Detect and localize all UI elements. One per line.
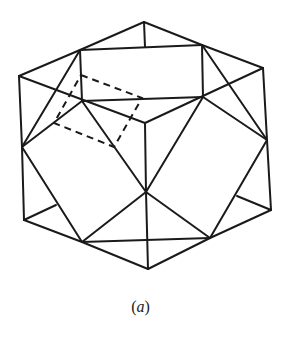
edge-center-lower_center <box>145 123 146 192</box>
edge-rect_br-right_mid <box>203 97 267 140</box>
edge-bottom_left-bottom_lc <box>24 220 82 242</box>
polyhedron-diagram <box>0 0 281 340</box>
edge-right_mid-bottom_right <box>267 140 271 210</box>
caption-letter: a <box>137 298 145 315</box>
edge-lower_center-bottom_lc <box>82 192 146 242</box>
edge-top-rect_tl <box>80 22 144 50</box>
edge-left_mid-bottom_lc <box>22 147 82 242</box>
edge-rect_bl-left_mid <box>22 101 82 147</box>
edge-rect_tl-left_mid <box>22 50 80 147</box>
figure-caption: (a) <box>0 298 281 316</box>
edge-bottom_rc-bottom <box>148 238 210 269</box>
visible-edges <box>19 22 271 269</box>
edge-top-top_mid <box>144 22 145 47</box>
edge-far_left_upper-left_mid <box>19 76 22 147</box>
edge-rect_tl-rect_tr <box>80 45 202 50</box>
edge-bottom_left-left_inner <box>24 205 56 220</box>
edge-rect_br-lower_center <box>146 97 203 192</box>
edge-rect_tr-far_right_upper <box>202 45 263 68</box>
edge-rect_tr-rect_br <box>202 45 203 97</box>
edge-top-rect_tr <box>144 22 202 45</box>
edge-bottom_lc-bottom <box>82 242 148 269</box>
edge-rect_tl-far_left_upper <box>19 50 80 76</box>
edge-right_mid-bottom_rc <box>210 140 267 238</box>
edge-lower_center-bottom_rc <box>146 192 210 238</box>
edge-far_right_upper-center <box>145 68 263 123</box>
edge-left_mid-bottom_left <box>22 147 24 220</box>
edge-bottom_right-right_inner <box>237 196 271 210</box>
dashed-hidden-square <box>54 75 142 147</box>
edge-lower_center-bottom <box>146 192 148 269</box>
edge-far_right_upper-right_mid <box>263 68 267 140</box>
caption-close-paren: ) <box>145 298 150 315</box>
edge-bottom_lc-bottom_rc <box>82 238 210 242</box>
